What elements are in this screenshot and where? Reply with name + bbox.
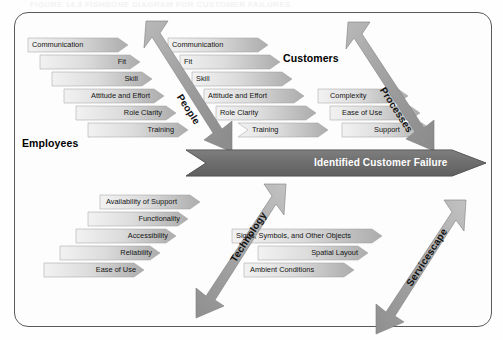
cause-people-mid-5: Training: [252, 125, 278, 135]
cause-technology-3: Reliability: [64, 248, 152, 258]
heading-employees: Employees: [22, 137, 78, 149]
cause-people-left-3: Attitude and Effort: [68, 91, 150, 101]
cause-people-left-0: Communication: [32, 40, 83, 50]
figure-canvas: FIGURE 14.3 FISHBONE DIAGRAM FOR CUSTOME…: [0, 0, 503, 340]
cause-people-left-4: Role Clarity: [80, 108, 162, 118]
cause-servicescape-1: Spatial Layout: [262, 248, 358, 258]
cause-processes-1: Ease of Use: [342, 108, 382, 118]
cause-people-mid-0: Communication: [172, 40, 223, 50]
effect-label: Identified Customer Failure: [314, 157, 448, 168]
cause-technology-1: Functionality: [92, 214, 180, 224]
cause-technology-0: Availability of Support: [106, 197, 177, 207]
fishbone-graphics: [0, 0, 503, 340]
cause-technology-4: Ease of Use: [48, 265, 136, 275]
cause-people-mid-1: Fit: [184, 57, 192, 67]
cause-people-mid-4: Role Clarity: [220, 108, 258, 118]
cause-people-left-1: Fit: [44, 57, 126, 67]
heading-customers: Customers: [283, 52, 339, 64]
cause-technology-2: Accessibility: [80, 231, 168, 241]
cause-people-mid-2: Skill: [196, 74, 210, 84]
cause-servicescape-2: Ambient Conditions: [250, 265, 314, 275]
cause-people-left-5: Training: [92, 125, 174, 135]
cause-processes-2: Support: [374, 125, 400, 135]
cause-people-mid-3: Attitude and Effort: [208, 91, 267, 101]
cause-people-left-2: Skill: [56, 74, 138, 84]
cause-processes-0: Complexity: [330, 91, 367, 101]
